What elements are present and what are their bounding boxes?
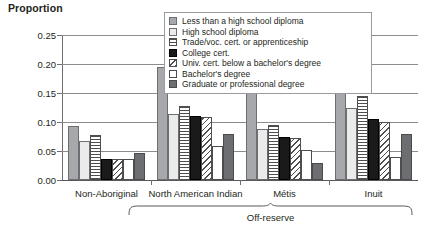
bar (101, 159, 112, 180)
chart-legend: Less than a high school diplomaHigh scho… (164, 12, 372, 94)
bar (179, 106, 190, 180)
bar (134, 153, 145, 180)
y-axis-tick-label: 0.10 (38, 117, 57, 128)
legend-item[interactable]: Bachelor's degree (169, 69, 367, 80)
y-axis-tick-label: 0.05 (38, 146, 57, 157)
legend-item-label: High school diploma (182, 27, 259, 38)
bar (90, 135, 101, 180)
y-axis-tick-label: 0.00 (38, 175, 57, 186)
legend-item[interactable]: Univ. cert. below a bachelor's degree (169, 58, 367, 69)
y-axis-tick-label: 0.25 (38, 30, 57, 41)
bar-chart: Proportion 0.000.050.100.150.200.25 Non-… (0, 0, 426, 231)
y-axis-tick (57, 180, 62, 181)
legend-item[interactable]: Trade/voc. cert. or apprenticeship (169, 37, 367, 48)
legend-swatch-icon (169, 70, 177, 78)
bar (168, 114, 179, 180)
y-axis-tick-label: 0.15 (38, 88, 57, 99)
bar (201, 117, 212, 180)
legend-item-label: Less than a high school diploma (182, 16, 303, 27)
y-axis-tick-labels: 0.000.050.100.150.200.25 (14, 35, 56, 180)
bar (346, 108, 357, 181)
legend-item-label: Graduate or professional degree (182, 79, 304, 90)
legend-item[interactable]: Less than a high school diploma (169, 16, 367, 27)
legend-item[interactable]: College cert. (169, 48, 367, 59)
legend-item-label: Trade/voc. cert. or apprenticeship (182, 37, 308, 48)
legend-item[interactable]: High school diploma (169, 27, 367, 38)
chart-title: Proportion (8, 2, 63, 14)
bar (312, 163, 323, 180)
x-axis-category-label: Non-Aboriginal (75, 188, 138, 199)
x-axis-tick (329, 180, 330, 185)
x-axis-category-label: Inuit (365, 188, 383, 199)
bar (357, 96, 368, 180)
bar-group (62, 35, 151, 180)
bar (368, 119, 379, 180)
bar (212, 146, 223, 180)
legend-swatch-icon (169, 28, 177, 36)
x-axis-tick (240, 180, 241, 185)
legend-swatch-icon (169, 59, 177, 67)
bar (290, 138, 301, 180)
bar (257, 129, 268, 180)
bar (279, 137, 290, 181)
x-axis-category-label: Métis (273, 188, 296, 199)
x-axis-tick (151, 180, 152, 185)
bar (79, 141, 90, 180)
bar (268, 125, 279, 180)
legend-swatch-icon (169, 17, 177, 25)
legend-swatch-icon (169, 38, 177, 46)
bar (246, 87, 257, 180)
bar (401, 134, 412, 180)
legend-item-label: Bachelor's degree (182, 69, 250, 80)
bar (223, 134, 234, 180)
legend-swatch-icon (169, 80, 177, 88)
legend-item-label: Univ. cert. below a bachelor's degree (182, 58, 321, 69)
bar (112, 159, 123, 180)
x-axis-category-label: North American Indian (149, 188, 243, 199)
bar (190, 116, 201, 180)
x-axis-tick-labels: Non-AboriginalNorth American IndianMétis… (62, 188, 418, 204)
y-axis-tick-label: 0.20 (38, 59, 57, 70)
bar (123, 159, 134, 180)
legend-item-label: College cert. (182, 48, 230, 59)
legend-item[interactable]: Graduate or professional degree (169, 79, 367, 90)
bar (379, 122, 390, 180)
bar (301, 150, 312, 180)
off-reserve-label: Off-reserve (128, 212, 413, 223)
legend-swatch-icon (169, 49, 177, 57)
bar (390, 157, 401, 180)
bar (68, 126, 79, 180)
